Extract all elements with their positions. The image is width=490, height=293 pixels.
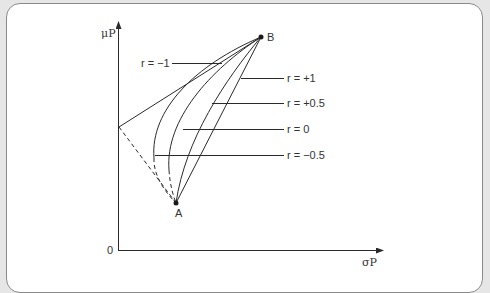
label-r-plus-0-5: r = +0.5: [287, 97, 325, 109]
point-B-label: B: [267, 31, 274, 43]
curve-r-0-dashed: [169, 170, 176, 203]
point-B-marker: [259, 35, 264, 40]
origin-label: 0: [107, 244, 113, 256]
curve-r-minus-0-5-dashed: [154, 158, 176, 203]
label-r-plus-1: r = +1: [287, 72, 316, 84]
point-A-label: A: [175, 207, 183, 219]
label-r-minus-0-5: r = −0.5: [287, 149, 325, 161]
y-axis-label: μP: [101, 27, 116, 40]
point-A-marker: [174, 201, 179, 206]
label-r-minus-1: r = −1: [141, 57, 170, 69]
label-r-0: r = 0: [287, 123, 309, 135]
x-axis-label: σP: [362, 256, 378, 269]
curve-r-minus-1-upper: [119, 37, 261, 127]
curve-r-plus-1: [176, 37, 261, 203]
curve-r-minus-1-lower: [119, 127, 176, 203]
curve-r-minus-0-5: [154, 37, 261, 158]
